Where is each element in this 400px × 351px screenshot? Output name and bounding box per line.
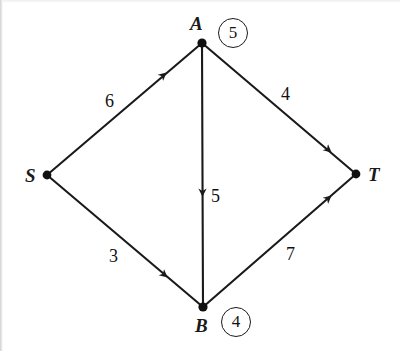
node-label-B: B xyxy=(195,316,208,335)
node-dot-A[interactable] xyxy=(197,38,206,47)
node-dot-S[interactable] xyxy=(43,171,52,180)
node-label-A: A xyxy=(190,14,203,33)
edge-weight-S-A: 6 xyxy=(105,92,114,110)
edge-weight-A-T: 4 xyxy=(281,85,290,103)
edge-lines xyxy=(47,43,356,307)
node-dot-B[interactable] xyxy=(198,302,207,311)
node-label-T: T xyxy=(368,165,380,184)
graph-canvas xyxy=(0,0,400,351)
node-label-S: S xyxy=(25,166,36,185)
node-dot-T[interactable] xyxy=(352,170,361,179)
edge-weight-S-B: 3 xyxy=(109,247,118,265)
edge-line-S-A xyxy=(47,43,202,175)
edge-line-S-B xyxy=(47,175,203,307)
edge-line-A-T xyxy=(202,43,356,174)
flow-network-diagram: S A B T 6 4 3 7 5 5 4 xyxy=(0,0,400,351)
badge-node-B: 4 xyxy=(221,307,251,337)
edge-weight-B-T: 7 xyxy=(286,245,295,263)
edge-line-A-B xyxy=(202,43,203,307)
edge-line-B-T xyxy=(203,174,356,307)
edge-weight-A-B: 5 xyxy=(211,187,220,205)
badge-node-A: 5 xyxy=(218,18,248,48)
